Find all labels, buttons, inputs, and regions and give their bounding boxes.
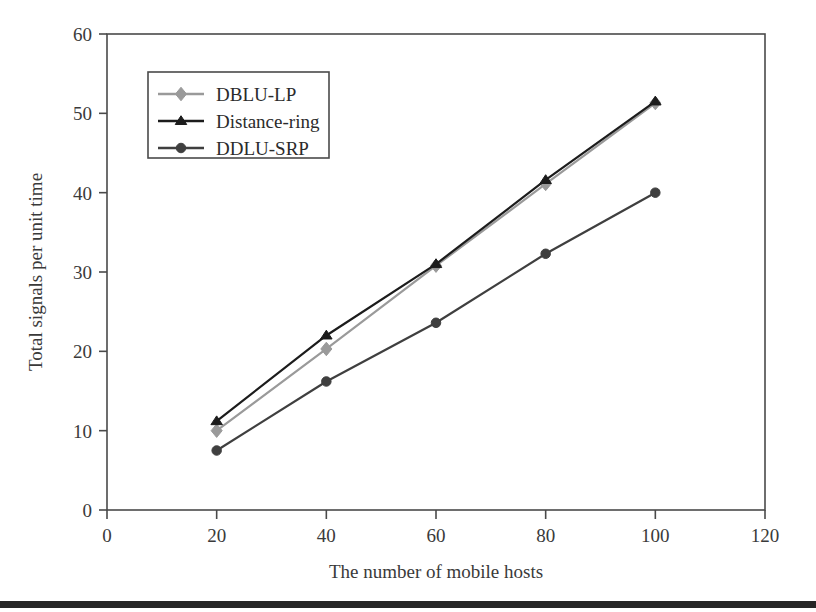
x-tick-label: 60 <box>427 525 446 546</box>
data-point-circle <box>651 188 661 198</box>
x-tick-label: 100 <box>641 525 670 546</box>
y-tick-label: 0 <box>83 500 93 521</box>
x-tick-label: 40 <box>317 525 336 546</box>
x-tick-label: 20 <box>207 525 226 546</box>
data-point-circle <box>212 446 222 456</box>
y-tick-label: 60 <box>73 24 92 45</box>
x-tick-label: 0 <box>102 525 112 546</box>
series-3 <box>212 188 660 455</box>
y-tick-label: 50 <box>73 103 92 124</box>
legend-label-3: DDLU-SRP <box>216 138 309 159</box>
bottom-rule <box>0 601 816 608</box>
y-tick-label: 10 <box>73 421 92 442</box>
legend-label-2: Distance-ring <box>216 111 320 132</box>
y-axis: 0102030405060 <box>73 24 107 521</box>
x-tick-label: 120 <box>751 525 780 546</box>
chart-legend: DBLU-LPDistance-ringDDLU-SRP <box>148 72 329 159</box>
data-point-circle <box>176 143 186 153</box>
y-tick-label: 40 <box>73 183 92 204</box>
data-point-circle <box>541 249 551 259</box>
x-axis-title: The number of mobile hosts <box>329 561 543 582</box>
legend-label-1: DBLU-LP <box>216 84 296 105</box>
x-tick-label: 80 <box>536 525 555 546</box>
x-axis: 020406080100120 <box>102 510 779 546</box>
line-chart: 0102030405060 020406080100120 The number… <box>0 0 816 612</box>
data-point-diamond <box>211 424 222 438</box>
data-point-circle <box>322 377 332 387</box>
data-point-triangle <box>321 330 333 339</box>
figure-container: 0102030405060 020406080100120 The number… <box>0 0 816 612</box>
y-axis-title: Total signals per unit time <box>25 173 46 371</box>
data-point-diamond <box>321 342 332 356</box>
data-point-circle <box>431 318 441 328</box>
bottom-rule-gap <box>0 608 816 612</box>
y-tick-label: 20 <box>73 341 92 362</box>
y-tick-label: 30 <box>73 262 92 283</box>
legend-items: DBLU-LPDistance-ringDDLU-SRP <box>158 84 320 159</box>
